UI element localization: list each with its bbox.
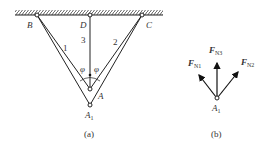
figure-a: B D C 3 1 2 φ φ A A1 (a) (15, 10, 163, 139)
label-a1: A1 (84, 110, 94, 121)
bar-2-original (90, 15, 142, 89)
label-bar-2: 2 (113, 37, 118, 47)
label-node-a1: A1 (211, 103, 221, 114)
pin-a (88, 87, 92, 91)
pin-d (88, 13, 92, 17)
figure-b: FN3 FN1 FN2 A1 (b) (187, 45, 254, 139)
pin-b (35, 13, 39, 17)
label-a: A (97, 91, 104, 101)
force-fn2-arrow (218, 72, 238, 97)
label-bar-1: 1 (63, 43, 68, 53)
label-phi-left: φ (80, 64, 85, 74)
label-d: D (79, 20, 87, 30)
caption-b: (b) (211, 129, 222, 139)
label-b: B (27, 20, 33, 30)
pin-a1 (88, 103, 92, 107)
junction-dot (89, 74, 92, 77)
label-fn1: FN1 (187, 58, 201, 69)
label-phi-right: φ (94, 64, 99, 74)
node-a1 (215, 96, 219, 100)
pin-c (140, 13, 144, 17)
label-fn2: FN2 (240, 57, 254, 68)
force-fn1-arrow (199, 75, 216, 97)
label-bar-3: 3 (81, 35, 86, 45)
label-fn3: FN3 (208, 45, 222, 56)
label-c: C (146, 20, 153, 30)
diagram-canvas: B D C 3 1 2 φ φ A A1 (a) FN3 FN1 FN2 A1 … (0, 0, 268, 155)
caption-a: (a) (84, 129, 94, 139)
